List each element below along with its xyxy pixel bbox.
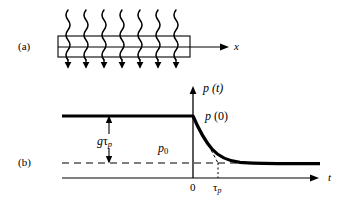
p-zero-arg: (0) bbox=[214, 109, 228, 123]
pump-ray-group bbox=[65, 10, 180, 69]
panel-a-tag: (a) bbox=[18, 41, 30, 52]
p0-asymptote-label: p0 bbox=[158, 142, 168, 156]
p0-subscript: 0 bbox=[164, 146, 168, 156]
pump-ray bbox=[155, 10, 162, 69]
tick-tau-subscript: p bbox=[217, 186, 221, 195]
tick-label-tau-p: τp bbox=[213, 182, 221, 195]
figure-vector-layer bbox=[0, 0, 347, 204]
g-tau-p-label: gτp bbox=[97, 135, 112, 149]
t-axis-label: t bbox=[328, 172, 331, 183]
p-zero-curve-label: p (0) bbox=[205, 110, 228, 122]
x-axis-label: x bbox=[234, 41, 239, 52]
p-axis-label: p (t) bbox=[203, 82, 223, 94]
panel-b-tag: (b) bbox=[18, 157, 31, 168]
figure-container: (a) x (b) p (t) p (0) p0 gτp 0 τp t bbox=[0, 0, 347, 204]
pump-ray bbox=[65, 10, 72, 69]
x-axis bbox=[58, 44, 229, 51]
pump-ray bbox=[137, 10, 144, 69]
p-axis-label-arg: (t) bbox=[212, 81, 223, 95]
panel-a-group bbox=[58, 10, 229, 69]
tick-label-origin: 0 bbox=[190, 182, 196, 193]
pump-ray bbox=[119, 10, 126, 69]
p-axis bbox=[190, 86, 197, 178]
pump-ray bbox=[101, 10, 108, 69]
pump-ray bbox=[83, 10, 90, 69]
tau-subscript: p bbox=[108, 139, 112, 149]
pump-ray bbox=[173, 10, 180, 69]
